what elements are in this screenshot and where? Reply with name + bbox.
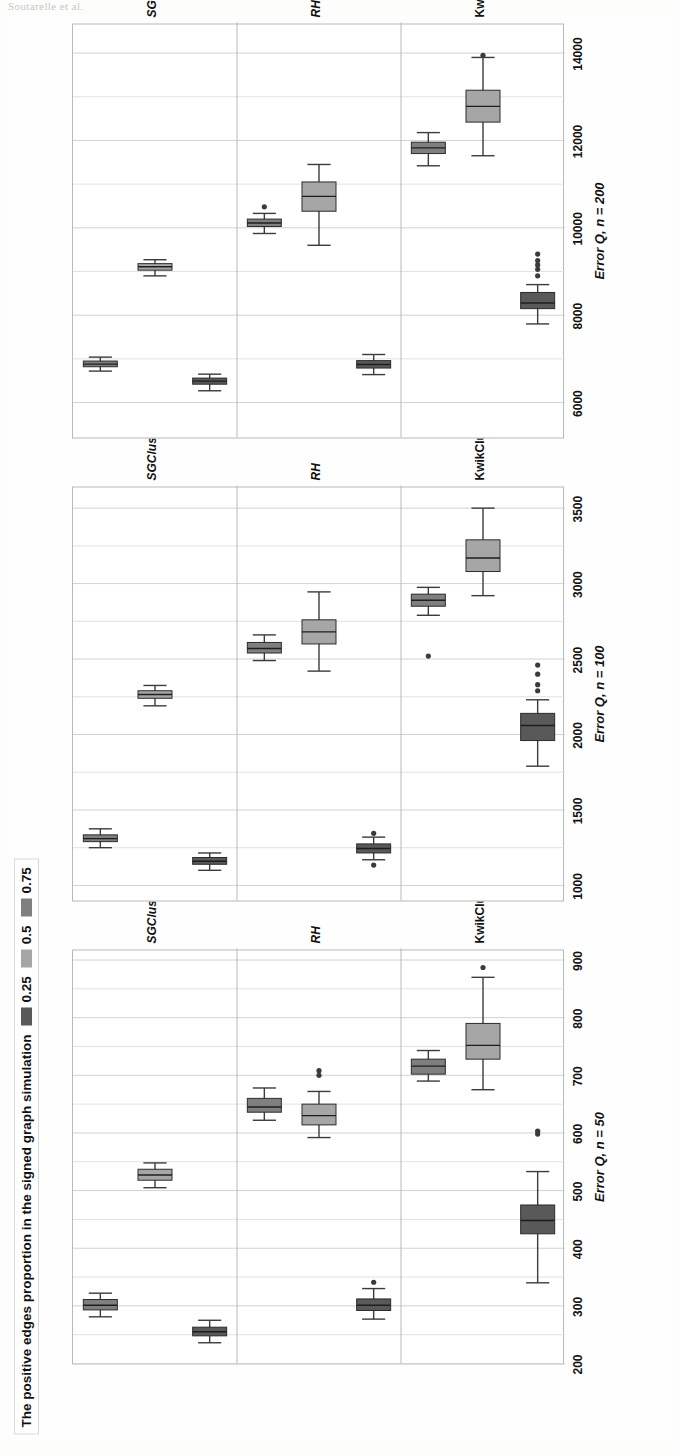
box-n200-RH-0.5 <box>302 164 336 245</box>
box-n200-KwikCluster-0.75 <box>411 132 445 165</box>
boxplot-svg-n100 <box>73 485 565 900</box>
box-n50-RH-0.5 <box>302 1068 336 1137</box>
facet-label-SGClust: SGClustα <box>145 0 159 17</box>
tick-label: 900 <box>571 951 585 971</box>
tick-label: 12000 <box>571 124 585 157</box>
tick-label: 600 <box>571 1123 585 1143</box>
box-n200-KwikCluster-0.25 <box>521 251 555 323</box>
tick-label: 10000 <box>571 212 585 245</box>
tick-label: 500 <box>571 1181 585 1201</box>
box-n100-SGClust-0.5 <box>138 685 172 705</box>
box-n50-RH-0.75 <box>247 1087 281 1119</box>
panel-n50: 900800700600500400300200Error Q, n = 50S… <box>10 949 592 1364</box>
plot-area-n200 <box>72 23 564 438</box>
facet-label-KwikCluster: KwikCluster <box>473 0 487 17</box>
box-n200-RH-0.25 <box>357 354 391 374</box>
plot-area-n50 <box>72 949 564 1364</box>
tick-label: 700 <box>571 1066 585 1086</box>
tick-label: 2500 <box>571 646 585 673</box>
box-n50-SGClust-0.25 <box>193 1320 227 1342</box>
tick-label: 2000 <box>571 722 585 749</box>
box-n50-KwikCluster-0.25 <box>521 1128 555 1282</box>
boxplot-svg-n200 <box>73 22 565 437</box>
facet-label-RH: RH <box>309 0 323 17</box>
tick-label: 8000 <box>571 302 585 329</box>
axis-title-n200: Error Q, n = 200 <box>592 23 607 438</box>
box-n50-RH-0.25 <box>357 1279 391 1318</box>
tick-label: 400 <box>571 1239 585 1259</box>
box-n200-SGClust-0.5 <box>138 259 172 275</box>
rotated-figure-wrapper: The positive edges proportion in the sig… <box>0 0 680 1455</box>
boxplot-svg-n50 <box>73 948 565 1363</box>
tick-label: 800 <box>571 1008 585 1028</box>
axis-title-n100: Error Q, n = 100 <box>592 486 607 901</box>
figure-canvas: The positive edges proportion in the sig… <box>10 15 670 1440</box>
plot-area-n100 <box>72 486 564 901</box>
tick-label: 3000 <box>571 571 585 598</box>
box-n50-SGClust-0.5 <box>138 1162 172 1187</box>
box-n50-SGClust-0.75 <box>83 1293 117 1317</box>
tick-label: 1000 <box>571 873 585 900</box>
box-n100-SGClust-0.75 <box>83 828 117 847</box>
tick-label: 200 <box>571 1354 585 1374</box>
box-n100-RH-0.25 <box>357 830 391 867</box>
tick-label: 14000 <box>571 37 585 70</box>
box-n50-KwikCluster-0.5 <box>466 964 500 1089</box>
box-n100-RH-0.75 <box>247 634 281 660</box>
box-n100-SGClust-0.25 <box>193 852 227 869</box>
panel-n100: 350030002500200015001000Error Q, n = 100… <box>10 486 592 901</box>
box-n200-RH-0.75 <box>247 204 281 233</box>
tick-label: 6000 <box>571 390 585 417</box>
tick-label: 300 <box>571 1296 585 1316</box>
box-n100-KwikCluster-0.25 <box>521 662 555 766</box>
box-n200-KwikCluster-0.5 <box>466 52 500 155</box>
box-n200-SGClust-0.25 <box>193 374 227 391</box>
panel-n200: 14000120001000080006000Error Q, n = 200S… <box>10 23 592 438</box>
box-n50-KwikCluster-0.75 <box>411 1050 445 1081</box>
tick-label: 3500 <box>571 495 585 522</box>
axis-title-n50: Error Q, n = 50 <box>592 949 607 1364</box>
box-n100-KwikCluster-0.5 <box>466 508 500 596</box>
tick-label: 1500 <box>571 797 585 824</box>
box-n100-KwikCluster-0.75 <box>411 587 445 658</box>
legend-label-1: 0.5 <box>19 925 34 944</box>
